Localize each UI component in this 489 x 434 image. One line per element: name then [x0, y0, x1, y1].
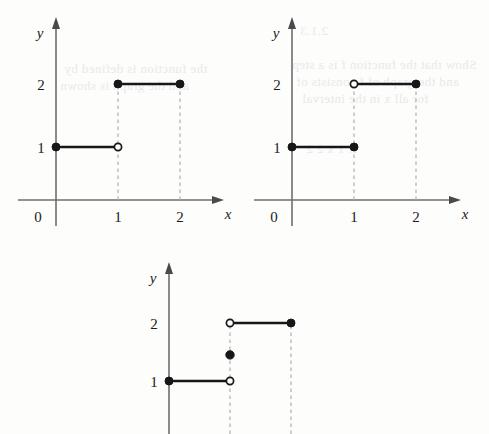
y-axis	[52, 17, 60, 226]
y-axis	[165, 262, 173, 434]
ytick-1: 1	[37, 140, 45, 156]
drop-lines	[118, 84, 180, 200]
xtick-0: 0	[34, 209, 42, 225]
figure-page: the function is defined by and the graph…	[0, 0, 489, 434]
drop-lines	[354, 84, 416, 200]
ytick-1: 1	[273, 140, 281, 156]
step-segment-lower	[288, 143, 358, 151]
graph-bottom: y 1 2	[120, 245, 370, 434]
xtick-1: 1	[114, 209, 122, 225]
xtick-2: 2	[412, 209, 420, 225]
graph-top-right: y x 1 2 0 1 2	[240, 0, 489, 240]
x-axis-label: x	[461, 206, 469, 222]
step-segment-upper	[350, 80, 420, 88]
x-axis	[254, 196, 461, 204]
ytick-2: 2	[150, 316, 158, 332]
x-axis-label: x	[224, 206, 232, 222]
ytick-2: 2	[37, 77, 45, 93]
ytick-1: 1	[150, 374, 158, 390]
xtick-1: 1	[350, 209, 358, 225]
y-axis-label: y	[271, 25, 280, 41]
ytick-2: 2	[273, 77, 281, 93]
x-axis	[18, 196, 224, 204]
y-axis-label: y	[148, 270, 157, 286]
step-segment-upper	[226, 319, 295, 327]
xtick-0: 0	[270, 209, 278, 225]
isolated-point	[226, 351, 234, 359]
step-segment-lower	[165, 377, 234, 385]
y-axis	[288, 17, 296, 226]
step-segment-upper	[114, 80, 184, 88]
y-axis-label: y	[35, 25, 44, 41]
step-segment-lower	[52, 143, 122, 151]
drop-lines	[230, 323, 291, 434]
xtick-2: 2	[176, 209, 184, 225]
graph-top-left: y x 1 2 0 1 2	[0, 0, 245, 240]
